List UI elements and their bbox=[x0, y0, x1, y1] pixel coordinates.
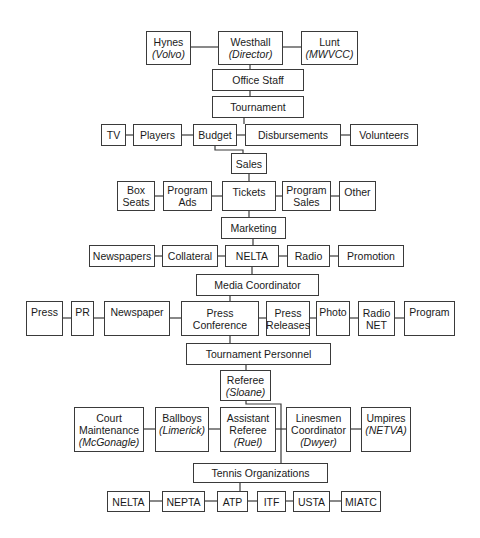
node-westhall: Westhall(Director) bbox=[218, 31, 283, 65]
node-sublabel: (NETVA) bbox=[365, 424, 406, 436]
node-tournament: Tournament bbox=[212, 96, 304, 118]
node-newspapers: Newspapers bbox=[89, 245, 155, 267]
node-sublabel: (Limerick) bbox=[159, 424, 205, 436]
node-marketing: Marketing bbox=[221, 217, 286, 239]
node-court-maintenance: CourtMaintenance(McGonagle) bbox=[74, 407, 144, 452]
node-label: Coordinator bbox=[291, 424, 346, 436]
node-label: Radio bbox=[363, 307, 390, 319]
node-label: Program bbox=[409, 306, 449, 318]
node-label: Maintenance bbox=[79, 424, 139, 436]
node-radio: Radio bbox=[287, 245, 330, 267]
node-photo: Photo bbox=[316, 301, 350, 336]
node-label: Players bbox=[140, 129, 175, 141]
node-label: Westhall bbox=[230, 36, 270, 48]
node-label: Umpires bbox=[366, 412, 405, 424]
node-label: USTA bbox=[298, 496, 325, 508]
node-label: Program bbox=[286, 184, 326, 196]
node-nepta: NEPTA bbox=[162, 491, 205, 512]
node-promotion: Promotion bbox=[338, 245, 404, 267]
node-tennis-organizations: Tennis Organizations bbox=[193, 463, 328, 483]
node-label: Referee bbox=[227, 374, 264, 386]
node-label: Conference bbox=[193, 319, 247, 331]
node-label: NET bbox=[366, 319, 387, 331]
node-itf: ITF bbox=[257, 491, 286, 512]
connector-line bbox=[215, 146, 243, 153]
node-pr: PR bbox=[71, 301, 94, 336]
node-assistant-referee: AssistantReferee(Ruel) bbox=[220, 407, 276, 452]
node-label: Lunt bbox=[319, 36, 339, 48]
node-label: Linesmen bbox=[296, 412, 342, 424]
node-label: Hynes bbox=[154, 36, 184, 48]
node-collateral: Collateral bbox=[162, 245, 218, 267]
node-label: Ballboys bbox=[162, 412, 202, 424]
node-label: Newspaper bbox=[110, 306, 163, 318]
node-disbursements: Disbursements bbox=[245, 124, 341, 146]
node-label: Releases bbox=[266, 319, 310, 331]
node-office-staff: Office Staff bbox=[212, 69, 304, 91]
node-label: Media Coordinator bbox=[214, 279, 300, 291]
node-label: NELTA bbox=[236, 250, 268, 262]
node-label: Seats bbox=[123, 196, 150, 208]
node-label: Ads bbox=[178, 196, 196, 208]
node-program: Program bbox=[404, 301, 455, 336]
node-players: Players bbox=[133, 124, 182, 146]
node-newspaper: Newspaper bbox=[104, 301, 170, 336]
node-label: Press bbox=[31, 306, 58, 318]
node-box-seats: BoxSeats bbox=[117, 181, 155, 211]
node-tickets: Tickets bbox=[222, 181, 276, 211]
node-label: Sales bbox=[236, 158, 262, 170]
node-sublabel: (MWVCC) bbox=[306, 48, 354, 60]
node-press-releases: PressReleases bbox=[266, 301, 310, 336]
node-label: Referee bbox=[229, 424, 266, 436]
node-other: Other bbox=[339, 181, 376, 211]
node-atp: ATP bbox=[217, 491, 248, 512]
node-label: NEPTA bbox=[166, 496, 200, 508]
node-label: Assistant bbox=[227, 412, 270, 424]
node-sublabel: (Dwyer) bbox=[300, 436, 337, 448]
node-radio-net: RadioNET bbox=[358, 301, 395, 336]
node-label: NELTA bbox=[112, 496, 144, 508]
node-hynes: Hynes(Volvo) bbox=[146, 31, 191, 65]
node-label: Photo bbox=[319, 306, 346, 318]
node-label: Newspapers bbox=[93, 250, 151, 262]
node-label: Other bbox=[344, 186, 370, 198]
node-label: Tennis Organizations bbox=[211, 467, 309, 479]
node-ballboys: Ballboys(Limerick) bbox=[155, 407, 209, 452]
node-lunt: Lunt(MWVCC) bbox=[301, 31, 358, 65]
node-label: Radio bbox=[295, 250, 322, 262]
node-label: PR bbox=[75, 306, 90, 318]
node-label: Collateral bbox=[168, 250, 212, 262]
node-volunteers: Volunteers bbox=[350, 124, 418, 146]
node-sublabel: (Sloane) bbox=[226, 386, 266, 398]
node-miatc: MIATC bbox=[341, 491, 381, 512]
node-sales: Sales bbox=[231, 153, 267, 174]
node-media-coordinator: Media Coordinator bbox=[196, 274, 319, 296]
node-label: ITF bbox=[264, 496, 280, 508]
node-tournament-personnel: Tournament Personnel bbox=[186, 343, 331, 365]
node-label: ATP bbox=[223, 496, 243, 508]
node-label: Court bbox=[96, 412, 122, 424]
node-umpires: Umpires(NETVA) bbox=[361, 407, 411, 452]
node-label: Office Staff bbox=[232, 74, 284, 86]
node-label: Box bbox=[127, 184, 145, 196]
node-sublabel: (McGonagle) bbox=[79, 436, 140, 448]
node-press-conference: PressConference bbox=[181, 301, 259, 336]
node-label: Tournament bbox=[230, 101, 285, 113]
node-press: Press bbox=[26, 301, 63, 336]
node-label: Volunteers bbox=[359, 129, 409, 141]
node-label: Sales bbox=[293, 196, 319, 208]
org-chart: Hynes(Volvo)Westhall(Director)Lunt(MWVCC… bbox=[0, 0, 480, 538]
node-label: Press bbox=[207, 307, 234, 319]
node-sublabel: (Ruel) bbox=[234, 436, 263, 448]
node-nelta-mkt: NELTA bbox=[225, 245, 279, 267]
node-label: Disbursements bbox=[258, 129, 328, 141]
node-tv: TV bbox=[101, 124, 126, 146]
node-label: Marketing bbox=[230, 222, 276, 234]
node-label: TV bbox=[107, 129, 120, 141]
node-label: Press bbox=[275, 307, 302, 319]
node-label: Budget bbox=[198, 129, 231, 141]
node-referee: Referee(Sloane) bbox=[220, 370, 271, 401]
node-budget: Budget bbox=[193, 124, 237, 146]
node-label: Promotion bbox=[347, 250, 395, 262]
node-sublabel: (Director) bbox=[229, 48, 273, 60]
